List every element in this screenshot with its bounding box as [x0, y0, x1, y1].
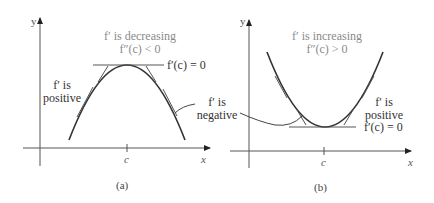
- panel-b-y-label: y: [240, 15, 246, 28]
- panel-a-c-label: c: [124, 153, 129, 166]
- panel-b-positive-note: f′ is positive: [361, 96, 407, 122]
- panel-b-c-label: c: [321, 156, 326, 169]
- panel-a-curve: [69, 65, 185, 140]
- panel-a-x-label: x: [201, 153, 206, 166]
- panel-b-tangent-label: f′(c) = 0: [364, 121, 403, 134]
- panel-a-title-line2: f″(c) < 0: [85, 43, 195, 56]
- panel-b-title-line2: f″(c) > 0: [287, 43, 367, 56]
- panel-a-tangent-label: f′(c) = 0: [167, 59, 206, 72]
- panel-b-tangent-right-top: [362, 76, 374, 98]
- panel-b-x-label: x: [408, 156, 413, 169]
- negative-note-line2: negative: [194, 109, 240, 122]
- panel-a-positive-note: f′ is positive: [42, 79, 82, 105]
- panel-a-positive-note-line2: positive: [42, 92, 82, 105]
- panel-b-title: f′ is increasing f″(c) > 0: [287, 30, 367, 56]
- panel-a-y-label: y: [31, 15, 37, 28]
- negative-note: f′ is negative: [194, 96, 240, 122]
- panel-b-tangent-left-top: [275, 76, 287, 98]
- panel-a-negative-leader: [175, 104, 195, 113]
- panel-a-title: f′ is decreasing f″(c) < 0: [85, 30, 195, 56]
- panel-a-caption: (a): [116, 179, 128, 192]
- panel-b-caption: (b): [314, 181, 327, 194]
- panel-a-tangent-right-bottom: [163, 89, 177, 116]
